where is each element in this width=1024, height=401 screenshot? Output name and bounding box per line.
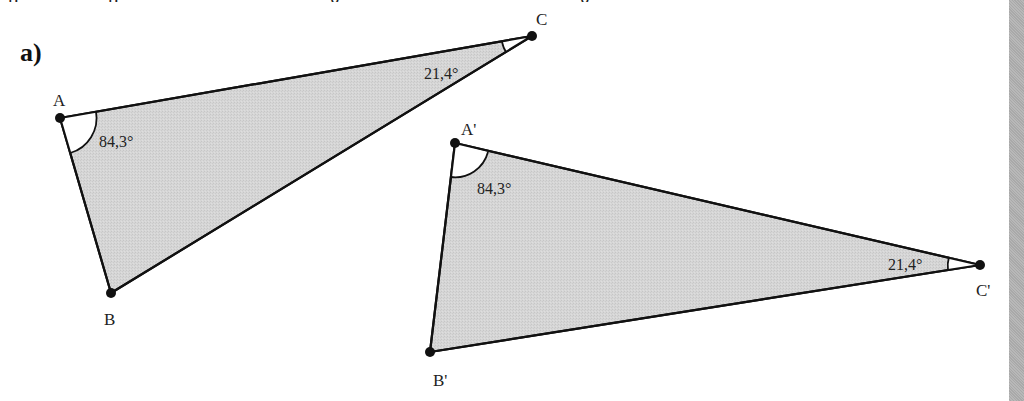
vertex-label-c: C xyxy=(536,10,547,30)
angle-label-c: 21,4° xyxy=(424,65,458,83)
angle-label-a: 84,3° xyxy=(99,133,133,151)
vertex-c-dot xyxy=(527,31,537,41)
vertex-label-a-prime: A' xyxy=(461,120,476,140)
vertex-label-b-prime: B' xyxy=(433,371,447,391)
triangle-prime-fill xyxy=(430,143,980,352)
vertex-label-b: B xyxy=(104,310,115,330)
vertex-c-prime-dot xyxy=(975,260,985,270)
vertex-b-dot xyxy=(106,288,116,298)
vertex-a-dot xyxy=(55,113,65,123)
angle-label-a-prime: 84,3° xyxy=(477,180,511,198)
triangle-a-prime-b-prime-c-prime xyxy=(425,138,985,357)
triangle-diagram xyxy=(0,0,1024,401)
vertex-label-c-prime: C' xyxy=(976,281,990,301)
vertex-a-prime-dot xyxy=(450,138,460,148)
angle-label-c-prime: 21,4° xyxy=(888,256,922,274)
vertex-label-a: A xyxy=(53,91,65,111)
vertex-b-prime-dot xyxy=(425,347,435,357)
